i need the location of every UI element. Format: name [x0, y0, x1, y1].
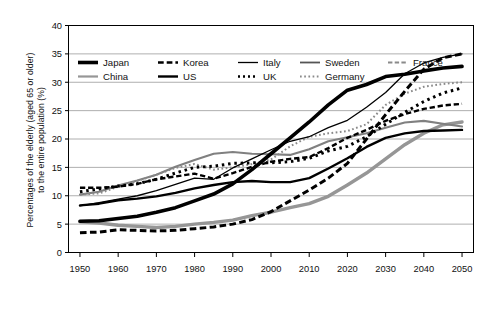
legend-label-sweden: Sweden [325, 57, 360, 68]
y-axis-title-line2: to the entire population (%) [36, 52, 47, 227]
legend-label-france: France [413, 57, 443, 68]
y-axis-title-line1: Percentages of the elderly (aged 65 or o… [25, 52, 36, 227]
plot-svg: 0510152025303540 19501960197019801990200… [0, 0, 503, 312]
legend-label-japan: Japan [103, 57, 129, 68]
x-axis-ticks: 1950196019701980199020002010202020302040… [70, 253, 473, 274]
x-tick-label-2040: 2040 [413, 264, 434, 274]
x-tick-label-2050: 2050 [452, 264, 473, 274]
y-axis-title: Percentages of the elderly (aged 65 or o… [14, 0, 58, 280]
legend-label-korea: Korea [183, 57, 209, 68]
chart-legend: JapanKoreaItalySwedenFranceChinaUSUKGerm… [78, 57, 443, 82]
x-tick-label-1990: 1990 [222, 264, 243, 274]
legend-label-germany: Germany [325, 71, 365, 82]
x-tick-label-2000: 2000 [261, 264, 282, 274]
x-tick-label-1960: 1960 [108, 264, 129, 274]
x-tick-label-1980: 1980 [184, 264, 205, 274]
x-tick-label-2020: 2020 [337, 264, 358, 274]
x-tick-label-2010: 2010 [299, 264, 320, 274]
legend-label-italy: Italy [263, 57, 281, 68]
series-line-germany [80, 82, 462, 194]
legend-label-uk: UK [263, 71, 277, 82]
legend-label-us: US [183, 71, 196, 82]
x-tick-label-1970: 1970 [146, 264, 167, 274]
elderly-population-line-chart: Percentages of the elderly (aged 65 or o… [0, 0, 503, 312]
x-tick-label-2030: 2030 [375, 264, 396, 274]
series-line-uk [80, 88, 462, 192]
x-tick-label-1950: 1950 [70, 264, 91, 274]
legend-label-china: China [103, 71, 129, 82]
